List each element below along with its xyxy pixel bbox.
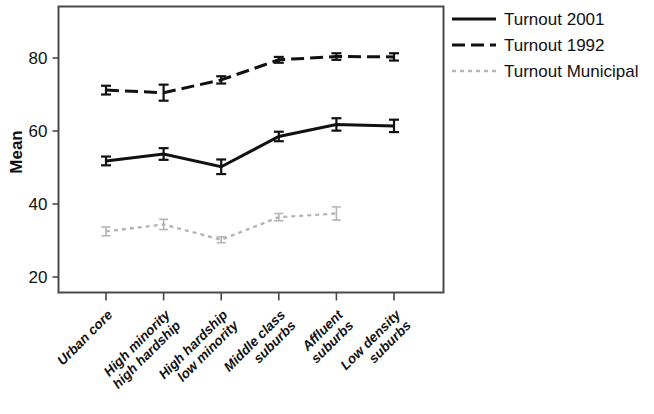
line-chart-figure: Mean 20406080 Urban coreHigh minorityhig… [0, 0, 654, 414]
y-axis-title-text: Mean [7, 130, 26, 173]
legend-label-text: Turnout 2001 [504, 10, 605, 29]
y-tick-label: 40 [29, 195, 48, 214]
legend-label-text: Turnout Municipal [504, 62, 639, 81]
y-axis-title: Mean [7, 130, 26, 173]
legend-label-text: Turnout 1992 [504, 36, 605, 55]
chart-container: Mean 20406080 Urban coreHigh minorityhig… [0, 0, 654, 414]
y-tick-label: 80 [29, 49, 48, 68]
y-tick-label: 20 [29, 268, 48, 287]
y-tick-label: 60 [29, 122, 48, 141]
